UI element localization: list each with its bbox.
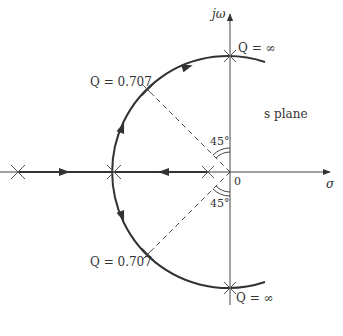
s-plane-label: s plane <box>264 107 307 121</box>
angle-top-label: 45° <box>210 135 230 148</box>
sigma-axis-label: σ <box>326 177 335 191</box>
dashed-line-bottom <box>148 172 230 254</box>
origin-label: 0 <box>234 175 241 188</box>
arrow-real-left <box>158 168 169 176</box>
jw-axis-label: jω <box>209 7 226 21</box>
dashed-line-top <box>148 90 230 172</box>
q-infinity-bottom-label: Q = ∞ <box>236 291 274 305</box>
angle-arc-bottom-1 <box>216 186 230 192</box>
angle-arc-top-1 <box>216 152 230 158</box>
q-infinity-top-label: Q = ∞ <box>238 41 276 55</box>
arrow-real-right <box>59 168 70 176</box>
q-0707-top-label: Q = 0.707 <box>90 75 152 89</box>
s-plane-root-locus: jω σ 0 s plane Q = ∞ Q = ∞ Q = 0.707 Q =… <box>0 0 343 336</box>
q-0707-bottom-label: Q = 0.707 <box>90 255 152 269</box>
angle-bottom-label: 45° <box>210 197 230 210</box>
